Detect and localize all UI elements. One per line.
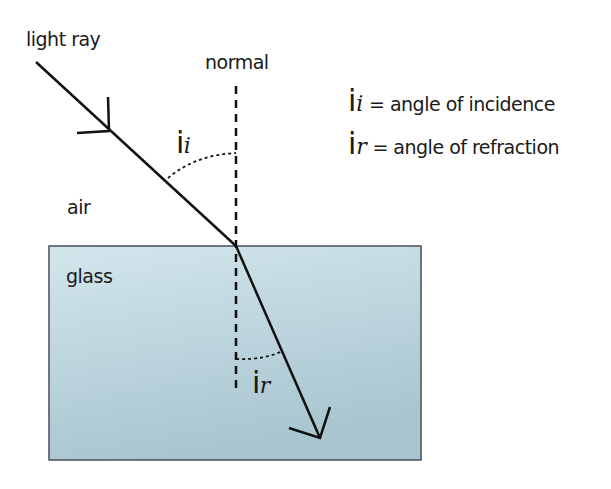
legend-refraction: ir = angle of refraction [348,126,559,161]
legend-incidence-text: = angle of incidence [363,93,555,115]
glass-label: glass [66,267,112,286]
incidence-angle-label: ii [176,128,190,158]
refraction-diagram [0,0,611,489]
light-ray-label: light ray [26,30,100,49]
air-label: air [67,198,90,217]
normal-label: normal [205,53,269,72]
incidence-subscript: i [184,133,191,158]
legend-incidence: ii = angle of incidence [348,83,555,118]
refraction-symbol: i [252,365,260,400]
incident-ray [36,62,236,246]
legend-refraction-subscript: r [356,134,367,159]
refraction-angle-label: ir [252,368,270,398]
refraction-subscript: r [260,373,270,398]
incidence-symbol: i [176,125,184,160]
legend-refraction-text: = angle of refraction [367,136,559,158]
